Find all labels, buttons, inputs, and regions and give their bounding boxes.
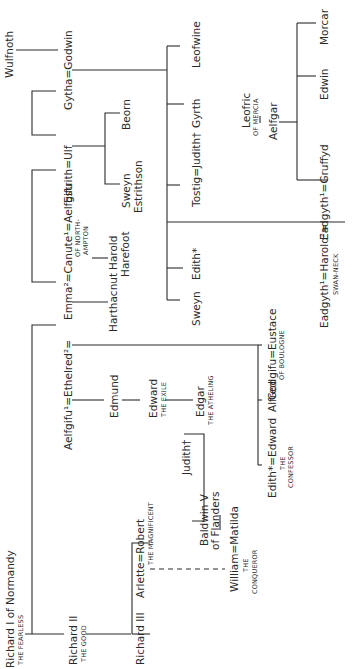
edward-exile-epithet: THE EXILE xyxy=(160,382,168,418)
person-emma-canute-aelfgifu: Emma²=Canute¹=Aelfgifu xyxy=(62,183,74,320)
richard-ii-epithet: THE GOOD xyxy=(80,625,88,663)
family-tree-diagram: Wulfnoth Gytha=Godwin Estrith=Ulf Beorn … xyxy=(0,0,358,669)
eustace-epithet: OF BOULOGNE xyxy=(278,330,286,380)
person-edward-exile: Edward xyxy=(147,379,159,418)
harold-epithet: SWAN-NECK xyxy=(332,253,340,295)
confessor-epithet-2: CONFESSOR xyxy=(287,446,295,488)
person-wulfnoth: Wulfnoth xyxy=(3,31,15,78)
person-edgar: Edgar xyxy=(194,386,206,417)
person-harthacnut: Harthacnut xyxy=(107,273,119,332)
person-arlette-robert: Arlette=Robert xyxy=(134,519,146,598)
person-william-matilda: William=Matilda xyxy=(228,506,240,592)
richard-i-epithet: THE FEARLESS xyxy=(17,615,25,666)
aelfgifu-epithet-1: OF NORTH- xyxy=(74,219,82,257)
person-judith: Judith† xyxy=(180,440,192,476)
person-harold-marriage: Eadgyth¹=Harold²= xyxy=(318,224,330,328)
person-aelfgar: Aelfgar xyxy=(267,102,279,140)
person-harold-harefoot-2: Harefoot xyxy=(119,231,131,277)
confessor-epithet-1: THE xyxy=(279,456,287,471)
person-gytha-godwin: Gytha=Godwin xyxy=(62,30,74,110)
robert-epithet: THE MAGNIFICENT xyxy=(147,502,155,566)
person-richard-iii: Richard III xyxy=(134,613,146,666)
william-epithet-1: THE xyxy=(242,558,250,573)
william-epithet-2: CONQUEROR xyxy=(251,549,259,594)
aelfgifu-epithet-2: AMPTON xyxy=(82,226,90,255)
person-sweyn: Sweyn xyxy=(190,291,202,326)
tree-connectors xyxy=(16,23,345,634)
person-richard-i: Richard I of Normandy xyxy=(4,550,16,668)
person-beorn: Beorn xyxy=(120,99,132,130)
leofric-epithet: OF MERCIA xyxy=(252,98,260,136)
person-alfred: Alfred xyxy=(266,381,278,412)
person-edith: Edith* xyxy=(190,248,202,280)
person-sweyn-estrithson: Sweyn xyxy=(120,173,132,208)
person-harold-harefoot: Harold xyxy=(107,236,119,270)
person-baldwin-2: of Flanders xyxy=(209,492,221,550)
person-gyrth: Gyrth xyxy=(190,99,202,128)
person-aelfgifu-ethelred: Aelfgifu¹=Ethelred²= xyxy=(62,340,74,450)
edgar-epithet: THE ATHELING xyxy=(207,375,215,426)
person-tostig-judith: Tostig=Judith† xyxy=(190,133,202,208)
person-richard-ii: Richard II xyxy=(67,616,79,665)
person-edith-edward: Edith*=Edward xyxy=(266,418,278,498)
person-leofwine: Leofwine xyxy=(190,21,202,68)
person-sweyn-estrithson-2: Estrithson xyxy=(132,160,144,213)
person-leofric: Leofric xyxy=(240,93,252,128)
person-morcar: Morcar xyxy=(318,8,330,45)
person-edwin: Edwin xyxy=(318,69,330,100)
person-edmund: Edmund xyxy=(108,374,120,418)
